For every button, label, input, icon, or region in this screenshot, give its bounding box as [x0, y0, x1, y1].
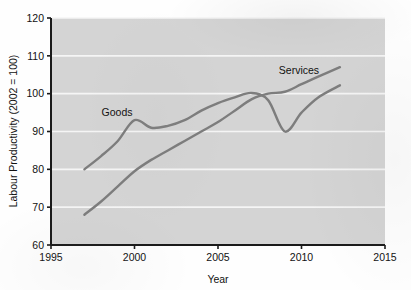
x-axis-title: Year [207, 273, 229, 285]
y-tick-label: 60 [32, 239, 44, 251]
chart-container: 60708090100110120 19952000200520102015 L… [0, 0, 411, 290]
x-tick-label: 1995 [39, 251, 63, 263]
series-label-goods: Goods [102, 106, 133, 118]
y-tick-label: 80 [32, 163, 44, 175]
y-tick-label: 70 [32, 201, 44, 213]
line-chart: 60708090100110120 19952000200520102015 L… [0, 0, 411, 290]
x-tick-label: 2010 [290, 251, 314, 263]
x-axis-ticks: 19952000200520102015 [39, 245, 397, 263]
y-tick-label: 100 [26, 87, 44, 99]
x-tick-label: 2000 [123, 251, 147, 263]
y-tick-label: 120 [26, 12, 44, 24]
x-tick-label: 2015 [373, 251, 397, 263]
y-axis-ticks: 60708090100110120 [26, 12, 51, 251]
x-tick-label: 2005 [206, 251, 230, 263]
y-tick-label: 110 [27, 50, 44, 62]
series-label-services: Services [279, 64, 319, 76]
y-axis-title: Labour Productivity (2002 = 100) [7, 55, 19, 208]
y-tick-label: 90 [32, 125, 44, 137]
